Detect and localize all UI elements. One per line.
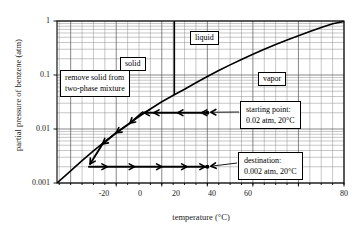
- y-axis-title: partial pressure of benzene (atm): [13, 12, 23, 178]
- x-tick-label-40: 40: [199, 189, 225, 198]
- starting-point-value: 0.02 atm, 20°C: [246, 115, 295, 126]
- remove-solid-note-line2: two-phase mixture: [65, 83, 125, 94]
- chart-figure: 1 0.1 0.01 0.001 -20 0 20 40 60 80 parti…: [0, 0, 357, 235]
- starting-point-title: starting point:: [246, 104, 295, 115]
- y-tick-label-0p01: 0.01: [22, 124, 50, 133]
- starting-point-callout: starting point: 0.02 atm, 20°C: [240, 101, 301, 129]
- x-tick-label-60: 60: [235, 189, 261, 198]
- region-label-solid: solid: [120, 57, 146, 71]
- destination-title: destination:: [244, 155, 297, 166]
- region-label-liquid: liquid: [190, 31, 219, 45]
- x-tick-label-80: 80: [331, 189, 357, 198]
- remove-solid-note: remove solid from two-phase mixture: [60, 70, 130, 97]
- phase-diagram-plot: [0, 0, 357, 235]
- remove-solid-note-line1: remove solid from: [65, 72, 125, 83]
- region-label-vapor: vapor: [258, 72, 286, 86]
- y-tick-label-0p001: 0.001: [18, 178, 50, 187]
- destination-value: 0.002 atm, 20°C: [244, 166, 297, 177]
- destination-callout: destination: 0.002 atm, 20°C: [238, 152, 303, 180]
- x-tick-label-0: 0: [127, 189, 153, 198]
- x-tick-label-neg20: -20: [91, 189, 117, 198]
- y-tick-label-1: 1: [26, 16, 50, 25]
- x-axis-title: temperature (°C): [57, 212, 345, 222]
- y-tick-label-0p1: 0.1: [26, 70, 50, 79]
- x-tick-label-20: 20: [163, 189, 189, 198]
